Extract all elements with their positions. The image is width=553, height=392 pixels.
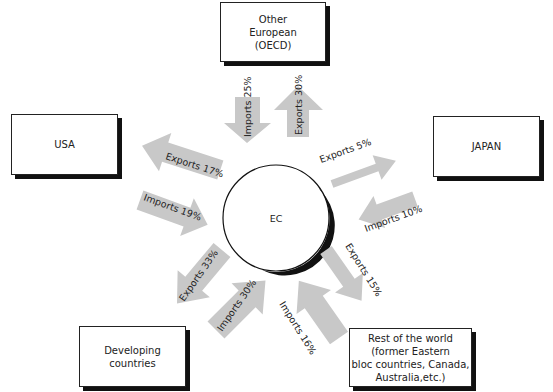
arrow-oecd-exports: Exports 30% (274, 75, 323, 137)
label-oecd-exports: Exports 30% (293, 75, 304, 135)
arrow-usa-exports: Exports 17% (136, 126, 226, 189)
arrow-oecd-imports: Imports 25% (224, 76, 271, 143)
arrow-usa-imports: Imports 19% (133, 181, 214, 243)
arrow-japan-imports: Imports 10% (353, 183, 424, 235)
arrow-japan-exports: Exports 5% (318, 136, 400, 196)
label-japan-exports: Exports 5% (318, 136, 373, 165)
label-oecd-imports: Imports 25% (242, 76, 253, 137)
ec-label: EC (270, 213, 283, 224)
flow-diagram: EC Imports 25% Exports 30% Exports 17% I… (0, 0, 553, 392)
